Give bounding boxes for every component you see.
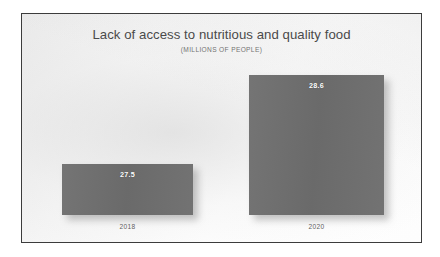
- bar-group-2018: 27.5 2018: [62, 14, 193, 242]
- category-label-2018: 2018: [62, 223, 193, 230]
- page-canvas: Lack of access to nutritious and quality…: [0, 0, 440, 257]
- bar-value-label: 27.5: [62, 170, 193, 179]
- bar-texture: [249, 75, 384, 215]
- bar-2018[interactable]: 27.5: [62, 164, 193, 215]
- bar-group-2020: 28.6 2020: [249, 14, 384, 242]
- bar-value-label: 28.6: [249, 81, 384, 90]
- bar-2020[interactable]: 28.6: [249, 75, 384, 215]
- chart-frame: Lack of access to nutritious and quality…: [21, 13, 422, 243]
- category-label-2020: 2020: [249, 223, 384, 230]
